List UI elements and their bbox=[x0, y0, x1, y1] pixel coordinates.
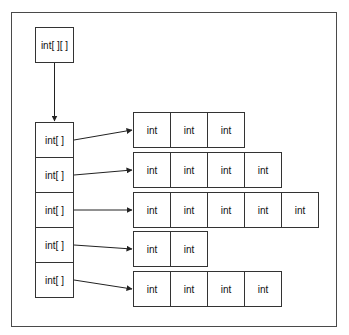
int-cell: int bbox=[133, 271, 171, 307]
row-reference-cell: int[ ] bbox=[35, 227, 74, 263]
int-cell: int bbox=[207, 112, 245, 148]
row-reference-cell: int[ ] bbox=[35, 157, 74, 193]
int-cell: int bbox=[170, 231, 208, 267]
int-array-row-4: int int bbox=[133, 231, 208, 267]
int-cell: int bbox=[170, 112, 208, 148]
int-cell: int bbox=[170, 271, 208, 307]
int-cell: int bbox=[170, 152, 208, 188]
int-cell: int bbox=[207, 152, 245, 188]
int-array-row-2: int int int int bbox=[133, 152, 282, 188]
int-cell: int bbox=[133, 152, 171, 188]
row-reference-cell: int[ ] bbox=[35, 262, 74, 298]
int-cell: int bbox=[133, 112, 171, 148]
int-array-row-5: int int int int bbox=[133, 271, 282, 307]
int-array-row-1: int int int bbox=[133, 112, 245, 148]
2d-array-box: int[ ][ ] bbox=[35, 27, 74, 63]
int-cell: int bbox=[244, 152, 282, 188]
int-cell: int bbox=[170, 192, 208, 228]
int-cell: int bbox=[133, 231, 171, 267]
reference-array-column: int[ ] int[ ] int[ ] int[ ] int[ ] bbox=[35, 122, 74, 298]
int-cell: int bbox=[244, 192, 282, 228]
int-cell: int bbox=[133, 192, 171, 228]
row-reference-cell: int[ ] bbox=[35, 192, 74, 228]
int-cell: int bbox=[207, 271, 245, 307]
int-cell: int bbox=[281, 192, 319, 228]
int-cell: int bbox=[244, 271, 282, 307]
int-cell: int bbox=[207, 192, 245, 228]
row-reference-cell: int[ ] bbox=[35, 122, 74, 158]
int-array-row-3: int int int int int bbox=[133, 192, 319, 228]
